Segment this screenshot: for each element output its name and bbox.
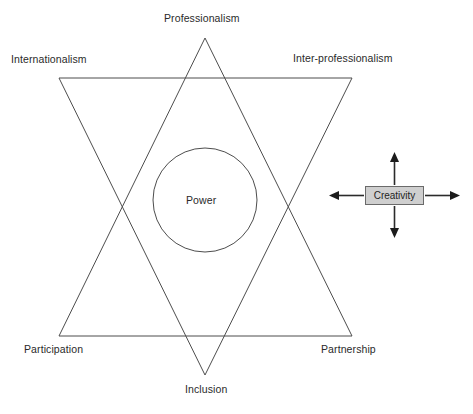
creativity-arrow-up-head bbox=[390, 152, 399, 162]
label-inclusion: Inclusion bbox=[185, 383, 227, 395]
label-partnership: Partnership bbox=[321, 343, 376, 355]
diagram-canvas: Professionalism Internationalism Inter-p… bbox=[0, 0, 473, 414]
creativity-arrow-down-head bbox=[390, 228, 399, 238]
label-inter-professionalism: Inter-professionalism bbox=[293, 52, 393, 64]
creativity-box: Creativity bbox=[365, 186, 424, 205]
label-participation: Participation bbox=[24, 343, 83, 355]
upward-triangle bbox=[59, 38, 352, 336]
label-professionalism: Professionalism bbox=[164, 12, 240, 24]
downward-triangle bbox=[59, 78, 352, 375]
label-internationalism: Internationalism bbox=[11, 53, 87, 65]
creativity-arrow-left-head bbox=[329, 191, 339, 200]
creativity-label: Creativity bbox=[374, 190, 416, 201]
label-power: Power bbox=[186, 194, 216, 206]
creativity-arrow-right-head bbox=[450, 191, 460, 200]
